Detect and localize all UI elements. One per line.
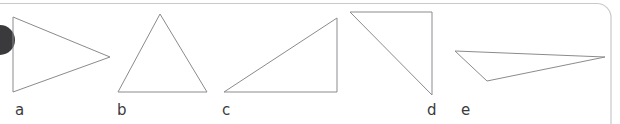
triangle-a	[13, 17, 110, 92]
shape-label-b: b	[117, 103, 127, 118]
triangle-d	[350, 12, 432, 95]
triangle-c	[224, 18, 337, 92]
triangle-e	[455, 51, 605, 81]
shape-label-c: c	[222, 103, 230, 118]
shape-label-e: e	[461, 103, 470, 118]
shape-label-d: d	[427, 103, 437, 118]
figure-canvas	[0, 0, 620, 124]
shape-group	[13, 12, 605, 95]
shape-label-a: a	[15, 103, 24, 118]
geometry-figure: a b c d e	[0, 0, 620, 124]
triangle-b	[118, 14, 207, 92]
